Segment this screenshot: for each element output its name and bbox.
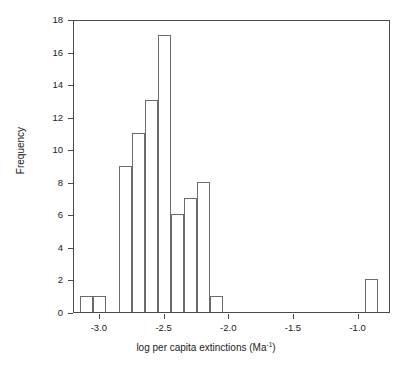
y-tick-label: 12 bbox=[52, 113, 63, 123]
histogram-bar bbox=[158, 35, 171, 312]
y-tick-label: 14 bbox=[52, 80, 63, 90]
x-tick-label: -2.0 bbox=[198, 322, 258, 333]
histogram-bar bbox=[365, 279, 378, 312]
histogram-bar bbox=[119, 166, 132, 313]
x-tick-label: -2.5 bbox=[134, 322, 194, 333]
x-axis-label: log per capita extinctions (Ma-1) bbox=[0, 341, 412, 353]
x-axis-label-main: log per capita extinctions (Ma bbox=[136, 342, 266, 353]
x-tick-mark bbox=[293, 314, 294, 319]
y-tick-label: 4 bbox=[58, 243, 63, 253]
x-tick-mark bbox=[228, 314, 229, 319]
y-tick-mark bbox=[68, 313, 73, 314]
y-tick-label: 18 bbox=[52, 15, 63, 25]
y-tick-label: 8 bbox=[58, 178, 63, 188]
histogram-bar bbox=[93, 296, 106, 312]
x-tick-label: -1.0 bbox=[328, 322, 388, 333]
x-tick-mark bbox=[164, 314, 165, 319]
plot-area bbox=[73, 20, 390, 313]
x-axis-label-tail: ) bbox=[272, 342, 275, 353]
histogram-bar bbox=[171, 214, 184, 312]
histogram-bar bbox=[132, 133, 145, 312]
histogram-bar bbox=[210, 296, 223, 312]
x-tick-mark bbox=[358, 314, 359, 319]
histogram-bar bbox=[145, 100, 158, 312]
histogram-figure: Frequency 024681012141618 -3.0-2.5-2.0-1… bbox=[0, 0, 412, 372]
y-tick-label: 0 bbox=[58, 308, 63, 318]
y-axis-label: Frequency bbox=[15, 101, 26, 201]
histogram-bar bbox=[184, 198, 197, 312]
y-tick-label: 10 bbox=[52, 145, 63, 155]
x-tick-label: -1.5 bbox=[263, 322, 323, 333]
y-tick-label: 2 bbox=[58, 275, 63, 285]
histogram-bar bbox=[80, 296, 93, 312]
x-tick-mark bbox=[99, 314, 100, 319]
y-tick-label: 16 bbox=[52, 48, 63, 58]
histogram-bars bbox=[74, 21, 389, 312]
x-tick-label: -3.0 bbox=[69, 322, 129, 333]
histogram-bar bbox=[197, 182, 210, 312]
y-tick-label: 6 bbox=[58, 210, 63, 220]
